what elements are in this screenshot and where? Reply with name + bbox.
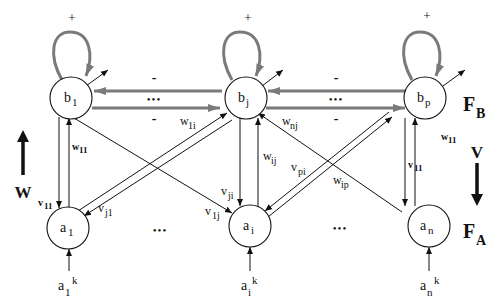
v-direction-label: V	[471, 143, 484, 162]
label-vj1: v j1	[98, 201, 113, 218]
output-arrow-bp	[443, 70, 465, 86]
node-ai: a i	[229, 205, 271, 247]
svg-text:a: a	[420, 278, 427, 293]
label-w11-left: w 11	[72, 141, 88, 155]
label-wij: w ij	[263, 149, 277, 166]
lateral-sign-3: -	[334, 70, 339, 85]
svg-text:a: a	[60, 220, 67, 235]
svg-text:ip: ip	[341, 179, 349, 190]
svg-text:b: b	[417, 90, 424, 105]
label-vji: v ji	[221, 184, 234, 201]
svg-text:v: v	[38, 197, 43, 208]
svg-text:k: k	[72, 274, 78, 286]
svg-text:a: a	[241, 278, 248, 293]
svg-text:b: b	[64, 90, 71, 105]
svg-text:1: 1	[68, 226, 74, 238]
svg-text:j1: j1	[104, 207, 113, 218]
svg-text:v: v	[408, 159, 413, 170]
svg-text:k: k	[252, 274, 258, 286]
lateral-sign-4: -	[334, 111, 339, 126]
node-a1: a 1	[47, 207, 89, 249]
layer-label-fa: F A	[463, 220, 487, 248]
svg-text:11: 11	[448, 135, 457, 145]
ellipsis-bottom-right: •••	[333, 222, 348, 234]
lateral-sign-2: -	[152, 111, 157, 126]
ellipsis-top-right: •••	[329, 93, 344, 105]
input-label-a1: a 1 k	[58, 274, 78, 298]
ellipsis-bottom-left: •••	[153, 224, 168, 236]
lateral-sign-1: -	[152, 70, 157, 85]
wip-line	[268, 117, 392, 217]
layer-label-fb: F B	[463, 93, 485, 121]
svg-text:1: 1	[72, 96, 78, 108]
svg-text:v: v	[221, 184, 227, 198]
svg-text:v: v	[291, 160, 297, 174]
label-wnj: w nj	[282, 114, 298, 131]
svg-text:ij: ij	[271, 155, 277, 166]
svg-text:B: B	[476, 106, 485, 121]
w-direction-label: W	[15, 183, 32, 202]
wnj-line	[258, 113, 402, 212]
svg-text:1: 1	[65, 286, 71, 298]
self-loop-b1	[54, 32, 90, 80]
svg-text:1i: 1i	[188, 120, 196, 131]
svg-text:p: p	[425, 96, 431, 108]
label-v1j: v 1j	[205, 204, 220, 221]
self-loop-bj	[224, 32, 260, 80]
svg-text:k: k	[434, 274, 440, 286]
self-loop-sign-b1: +	[68, 10, 75, 25]
svg-text:nj: nj	[290, 120, 298, 131]
svg-text:v: v	[205, 204, 211, 218]
node-an: a n	[408, 205, 450, 247]
svg-text:ji: ji	[227, 190, 234, 201]
node-b1: b 1	[50, 77, 92, 119]
bam-network-diagram: + + + - - - - ••• ••• b 1	[0, 0, 502, 308]
svg-text:1j: 1j	[212, 210, 220, 221]
label-wip: w ip	[333, 173, 349, 190]
label-vpi: v pi	[291, 160, 306, 177]
svg-text:v: v	[98, 201, 104, 215]
label-w11-right: w 11	[441, 131, 457, 145]
label-w1i: w 1i	[180, 114, 196, 131]
output-arrow-bj	[262, 70, 283, 86]
svg-text:a: a	[58, 278, 65, 293]
svg-text:a: a	[420, 218, 427, 233]
input-label-ai: a i k	[241, 274, 258, 298]
self-loop-sign-bj: +	[244, 10, 251, 25]
svg-text:A: A	[476, 233, 487, 248]
label-v11-left: v 11	[38, 197, 53, 211]
input-label-an: a n k	[420, 274, 440, 298]
v1j-line	[74, 118, 232, 213]
svg-text:n: n	[428, 224, 434, 236]
node-bp: b p	[404, 77, 446, 119]
node-bj: b j	[225, 77, 267, 119]
svg-text:11: 11	[44, 201, 53, 211]
svg-text:pi: pi	[298, 166, 306, 177]
output-arrow-b1	[86, 70, 108, 86]
svg-text:11: 11	[79, 145, 88, 155]
svg-text:n: n	[427, 286, 433, 298]
svg-text:F: F	[463, 220, 475, 242]
label-v11-right: v 11	[408, 159, 423, 173]
svg-text:11: 11	[414, 163, 423, 173]
svg-text:i: i	[251, 224, 254, 236]
svg-text:b: b	[238, 90, 245, 105]
svg-text:j: j	[245, 96, 249, 108]
svg-text:a: a	[243, 218, 250, 233]
self-loop-bp	[404, 32, 440, 80]
svg-text:i: i	[248, 286, 251, 298]
ellipsis-top-left: •••	[147, 93, 162, 105]
self-loop-sign-bp: +	[423, 8, 430, 23]
svg-text:F: F	[463, 93, 475, 115]
